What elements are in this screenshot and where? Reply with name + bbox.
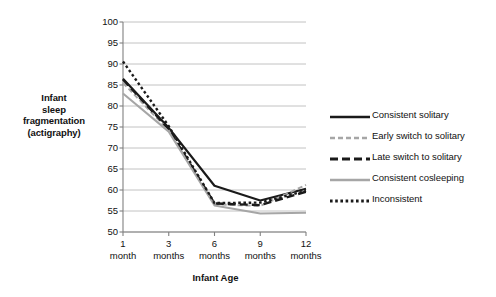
legend-item[interactable]: Late switch to solitary bbox=[330, 146, 494, 167]
y-axis-title-line-1: Infant bbox=[8, 92, 100, 104]
x-tick-label: 12months bbox=[279, 238, 333, 261]
legend-swatch-line bbox=[330, 151, 370, 163]
x-tick-number: 12 bbox=[279, 238, 333, 250]
chart-svg bbox=[100, 12, 315, 244]
y-axis-title-line-3: fragmentation bbox=[8, 115, 100, 127]
legend-item[interactable]: Consistent solitary bbox=[330, 104, 494, 125]
y-tick-label: 85 bbox=[96, 80, 118, 90]
y-tick-label: 75 bbox=[96, 122, 118, 132]
x-tick-unit: months bbox=[279, 250, 333, 262]
y-tick-label: 50 bbox=[96, 227, 118, 237]
legend-label: Early switch to solitary bbox=[372, 130, 465, 141]
legend-label: Consistent solitary bbox=[372, 109, 449, 120]
y-tick-label: 55 bbox=[96, 206, 118, 216]
y-tick-label: 100 bbox=[96, 17, 118, 27]
y-axis-title: Infant sleep fragmentation (actigraphy) bbox=[8, 92, 100, 138]
series-line-0 bbox=[123, 79, 306, 201]
y-tick-label: 80 bbox=[96, 101, 118, 111]
y-tick-label: 60 bbox=[96, 185, 118, 195]
legend-swatch-line bbox=[330, 109, 370, 121]
y-tick-label: 95 bbox=[96, 38, 118, 48]
legend-swatch-line bbox=[330, 172, 370, 184]
y-axis-title-line-2: sleep bbox=[8, 104, 100, 116]
series-line-4 bbox=[123, 61, 306, 203]
chart-legend: Consistent solitaryEarly switch to solit… bbox=[330, 104, 494, 209]
x-axis-title: Infant Age bbox=[123, 272, 308, 283]
plot-area bbox=[100, 12, 315, 244]
legend-label: Inconsistent bbox=[372, 193, 422, 204]
legend-item[interactable]: Consistent cosleeping bbox=[330, 167, 494, 188]
legend-item[interactable]: Inconsistent bbox=[330, 188, 494, 209]
chart-figure: Infant sleep fragmentation (actigraphy) … bbox=[0, 0, 496, 297]
y-tick-label: 65 bbox=[96, 164, 118, 174]
y-tick-label: 90 bbox=[96, 59, 118, 69]
y-tick-label: 70 bbox=[96, 143, 118, 153]
legend-swatch-line bbox=[330, 130, 370, 142]
legend-item[interactable]: Early switch to solitary bbox=[330, 125, 494, 146]
legend-label: Late switch to solitary bbox=[372, 151, 462, 162]
legend-swatch-line bbox=[330, 193, 370, 205]
legend-label: Consistent cosleeping bbox=[372, 172, 464, 183]
y-axis-title-line-4: (actigraphy) bbox=[8, 127, 100, 139]
